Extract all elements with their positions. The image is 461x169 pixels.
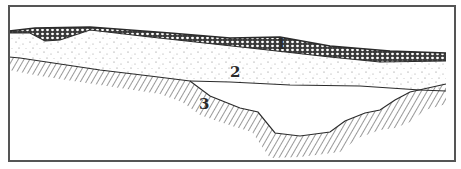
layer-2-label: 2 bbox=[230, 63, 240, 81]
layer-1-label: 1 bbox=[276, 35, 286, 53]
cross-section-diagram: 1 2 3 bbox=[0, 0, 461, 169]
layer-3-label: 3 bbox=[199, 95, 209, 113]
